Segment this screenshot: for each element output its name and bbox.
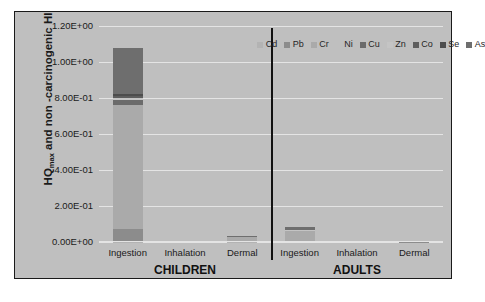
x-axis-label: Dermal bbox=[214, 246, 271, 260]
group-label-children: CHILDREN bbox=[99, 262, 271, 278]
x-axis-tick-labels: IngestionInhalationDermalIngestionInhala… bbox=[99, 246, 443, 260]
legend-item-cu[interactable]: Cu bbox=[360, 40, 380, 49]
legend-item-pb[interactable]: Pb bbox=[284, 40, 304, 49]
legend-label: Pb bbox=[293, 40, 304, 49]
legend-swatch-icon bbox=[466, 42, 472, 48]
legend-swatch-icon bbox=[387, 42, 393, 48]
bar-slot bbox=[99, 26, 156, 242]
legend-swatch-icon bbox=[284, 42, 290, 48]
bar-slot bbox=[156, 26, 213, 242]
legend-label: Cd bbox=[266, 40, 278, 49]
y-axis-title-prefix: HQ bbox=[42, 168, 54, 185]
x-axis-label: Inhalation bbox=[156, 246, 213, 260]
bar-segment-cr[interactable] bbox=[113, 105, 143, 229]
bar-slot bbox=[214, 26, 271, 242]
x-axis-label: Ingestion bbox=[99, 246, 156, 260]
stacked-bar[interactable] bbox=[285, 227, 315, 242]
legend-swatch-icon bbox=[336, 42, 342, 48]
legend-label: Se bbox=[448, 40, 459, 49]
x-axis-label: Inhalation bbox=[328, 246, 385, 260]
y-axis-tick-label: 8.00E-01 bbox=[54, 93, 93, 103]
legend-swatch-icon bbox=[440, 42, 446, 48]
legend-label: Co bbox=[421, 40, 433, 49]
y-axis-title-suffix: and non -carcinogenic HI bbox=[42, 13, 54, 154]
bar-segment-pb[interactable] bbox=[113, 229, 143, 241]
legend-item-co[interactable]: Co bbox=[413, 40, 433, 49]
group-label-adults: ADULTS bbox=[271, 262, 443, 278]
y-axis-tick-label: 4.00E-01 bbox=[54, 165, 93, 175]
legend-item-cr[interactable]: Cr bbox=[311, 40, 329, 49]
legend-swatch-icon bbox=[413, 42, 419, 48]
legend-label: As bbox=[475, 40, 485, 49]
bar-segment-as[interactable] bbox=[113, 48, 143, 94]
y-axis-tick-label: 6.00E-01 bbox=[54, 129, 93, 139]
x-axis-label: Ingestion bbox=[271, 246, 328, 260]
legend-label: Cu bbox=[368, 40, 380, 49]
legend-item-se[interactable]: Se bbox=[440, 40, 460, 49]
legend-item-as[interactable]: As bbox=[466, 40, 485, 49]
plot-area: 0.00E+002.00E-014.00E-016.00E-018.00E-01… bbox=[99, 26, 443, 242]
legend-item-ni[interactable]: Ni bbox=[336, 40, 353, 49]
x-axis-group-labels: CHILDRENADULTS bbox=[99, 262, 443, 278]
bar-slot bbox=[271, 26, 328, 242]
y-axis-tick-label: 2.00E-01 bbox=[54, 201, 93, 211]
legend-label: Cr bbox=[319, 40, 329, 49]
chart-legend: CdPbCrNiCuZnCoSeAs bbox=[257, 40, 485, 49]
legend-swatch-icon bbox=[311, 42, 317, 48]
group-divider bbox=[271, 28, 273, 260]
y-axis-tick-label: 1.20E+00 bbox=[52, 21, 93, 31]
legend-label: Ni bbox=[344, 40, 353, 49]
chart-figure: HQmax and non -carcinogenic HI 0.00E+002… bbox=[14, 11, 452, 279]
legend-swatch-icon bbox=[257, 42, 263, 48]
y-axis-tick-label: 1.00E+00 bbox=[52, 57, 93, 67]
y-axis-tick-label: 0.00E+00 bbox=[52, 237, 93, 247]
bar-segment-cr[interactable] bbox=[285, 231, 315, 241]
x-axis-label: Dermal bbox=[386, 246, 443, 260]
legend-swatch-icon bbox=[360, 42, 366, 48]
bar-slot bbox=[328, 26, 385, 242]
legend-label: Zn bbox=[395, 40, 406, 49]
bar-slot bbox=[386, 26, 443, 242]
legend-item-zn[interactable]: Zn bbox=[387, 40, 406, 49]
stacked-bar[interactable] bbox=[113, 48, 143, 242]
legend-item-cd[interactable]: Cd bbox=[257, 40, 277, 49]
